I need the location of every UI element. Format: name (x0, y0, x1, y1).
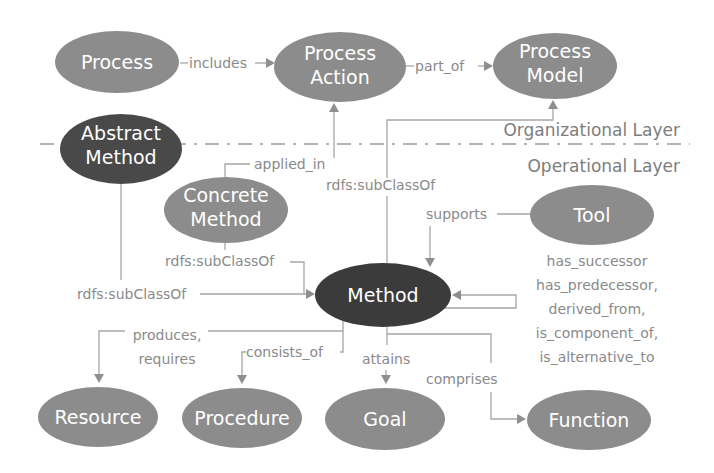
organizational-layer-label: Organizational Layer (503, 120, 680, 140)
svg-text:rdfs:subClassOf: rdfs:subClassOf (165, 253, 275, 269)
svg-text:rdfs:subClassOf: rdfs:subClassOf (326, 177, 436, 193)
svg-text:includes: includes (189, 55, 247, 71)
arrow-head-icon (94, 374, 104, 383)
edge-applied-in: applied_in (225, 103, 339, 177)
svg-text:Function: Function (549, 409, 630, 431)
svg-text:Process: Process (304, 42, 376, 64)
arrow-head-icon (306, 289, 315, 299)
node-process-model: Process Model (493, 33, 617, 99)
edge-method-self-relations: has_successor has_predecessor, derived_f… (438, 253, 658, 365)
svg-text:Abstract: Abstract (81, 122, 161, 144)
svg-text:Tool: Tool (573, 204, 611, 226)
node-tool: Tool (530, 185, 654, 245)
node-method: Method (315, 263, 451, 327)
svg-text:consists_of: consists_of (246, 344, 324, 360)
arrow-head-icon (329, 103, 339, 112)
svg-text:requires: requires (138, 351, 195, 367)
node-goal: Goal (325, 388, 445, 450)
node-abstract-method: Abstract Method (60, 114, 182, 184)
svg-text:Procedure: Procedure (194, 407, 289, 429)
operational-layer-label: Operational Layer (527, 156, 680, 176)
node-function: Function (527, 390, 651, 450)
svg-text:Process: Process (519, 40, 591, 62)
svg-text:derived_from,: derived_from, (549, 301, 646, 317)
svg-text:attains: attains (362, 351, 410, 367)
edge-supports: supports (425, 206, 530, 267)
arrow-head-icon (237, 375, 247, 384)
svg-text:Method: Method (347, 284, 418, 306)
edge-part-of: part_of (405, 58, 493, 74)
svg-text:Concrete: Concrete (183, 184, 269, 206)
edge-consists-of: consists_of (237, 331, 343, 384)
svg-text:has_predecessor,: has_predecessor, (536, 277, 658, 293)
svg-text:Action: Action (310, 66, 370, 88)
arrow-head-icon (266, 58, 275, 68)
svg-text:applied_in: applied_in (254, 156, 325, 172)
arrow-head-icon (381, 375, 391, 384)
node-resource: Resource (38, 387, 158, 447)
svg-text:has_successor: has_successor (547, 253, 648, 269)
ontology-diagram: Organizational Layer Operational Layer i… (0, 0, 714, 473)
edge-includes: includes (180, 55, 275, 71)
arrow-head-icon (517, 414, 526, 424)
node-concrete-method: Concrete Method (164, 177, 288, 243)
arrow-head-icon (452, 290, 461, 300)
svg-text:is_component_of,: is_component_of, (536, 325, 658, 341)
arrow-head-icon (425, 258, 435, 267)
arrow-head-icon (484, 61, 493, 71)
svg-text:Method: Method (85, 146, 156, 168)
svg-text:produces,: produces, (133, 327, 202, 343)
svg-text:Model: Model (526, 64, 583, 86)
svg-text:part_of: part_of (415, 58, 465, 74)
node-procedure: Procedure (182, 388, 302, 448)
svg-text:Process: Process (81, 51, 153, 73)
node-process-action: Process Action (274, 32, 406, 102)
svg-text:is_alternative_to: is_alternative_to (539, 349, 654, 365)
svg-text:Goal: Goal (363, 408, 406, 430)
arrow-head-icon (548, 100, 558, 109)
svg-text:rdfs:subClassOf: rdfs:subClassOf (77, 286, 187, 302)
edge-attains: attains (362, 327, 410, 384)
svg-text:supports: supports (426, 206, 487, 222)
svg-text:Resource: Resource (54, 406, 141, 428)
svg-text:comprises: comprises (426, 371, 498, 387)
node-process: Process (55, 31, 179, 93)
svg-text:Method: Method (190, 208, 261, 230)
